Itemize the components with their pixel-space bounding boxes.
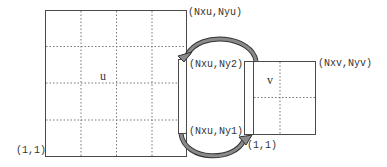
u-ny2-label: (Nxu,Ny2): [189, 60, 243, 70]
v-origin-label: (1,1): [247, 141, 277, 151]
diagram-canvas: [0, 0, 387, 167]
block-v-label: v: [267, 74, 273, 86]
u-max-corner-label: (Nxu,Nyu): [188, 8, 242, 18]
u-ny1-label: (Nxu,Ny1): [189, 127, 243, 137]
block-u-label: u: [100, 70, 106, 82]
block-u: [46, 11, 187, 157]
u-origin-label: (1,1): [16, 146, 46, 156]
block-u-ghost-strip: [179, 60, 187, 134]
v-max-corner-label: (Nxv,Nyv): [318, 59, 372, 69]
block-v: [245, 62, 316, 135]
arrow-u-to-v: [181, 134, 252, 156]
